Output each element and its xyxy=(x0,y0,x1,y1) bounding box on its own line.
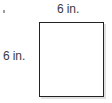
stray-dot-icon xyxy=(3,10,5,13)
geometry-figure: 6 in. 6 in. xyxy=(0,0,112,103)
square-shape xyxy=(39,22,104,97)
left-side-label: 6 in. xyxy=(3,50,25,63)
top-side-label: 6 in. xyxy=(57,3,79,16)
